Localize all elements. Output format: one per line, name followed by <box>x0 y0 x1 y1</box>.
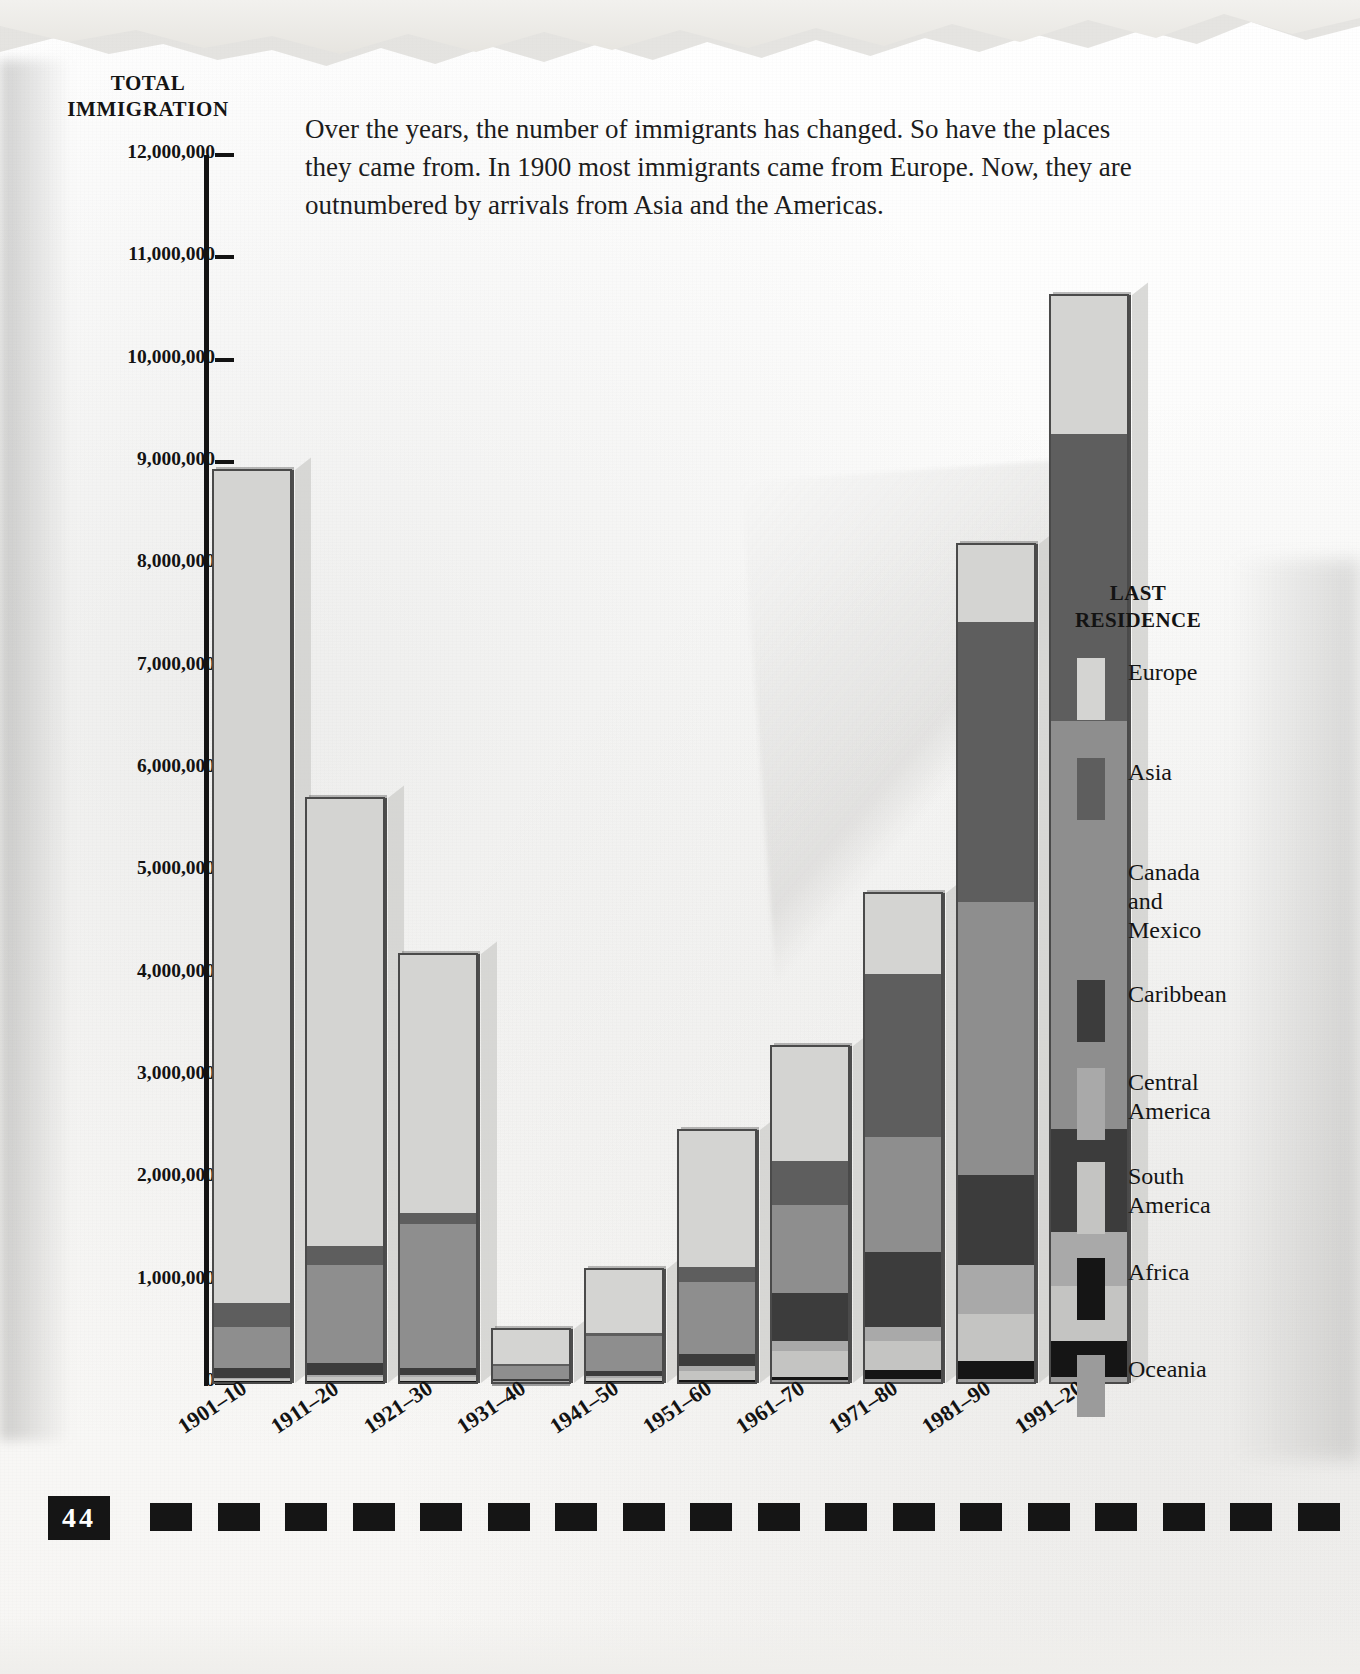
y-axis-tick-label: 11,000,000 <box>65 243 215 265</box>
bar-group <box>209 150 1109 1383</box>
bar-segment[interactable] <box>771 1341 849 1351</box>
footer-dash <box>960 1503 1002 1531</box>
bar-segment[interactable] <box>585 1269 663 1332</box>
y-axis-tick-label: 12,000,000 <box>65 141 215 163</box>
bar-segment[interactable] <box>771 1205 849 1293</box>
bar-stack[interactable] <box>213 470 291 1383</box>
x-axis-line <box>204 1381 208 1386</box>
bar-segment[interactable] <box>213 470 291 1303</box>
bar-column[interactable] <box>492 1329 570 1383</box>
legend-swatch <box>1077 980 1105 1042</box>
bar-segment[interactable] <box>957 622 1035 902</box>
bar-stack[interactable] <box>492 1329 570 1383</box>
legend-label-line: Canada <box>1128 858 1201 887</box>
legend-item[interactable]: Europe <box>1077 658 1197 720</box>
bar-segment[interactable] <box>306 1246 384 1265</box>
bar-segment[interactable] <box>492 1366 570 1379</box>
bar-segment[interactable] <box>957 1265 1035 1313</box>
bar-segment[interactable] <box>864 1252 942 1328</box>
bar-segment[interactable] <box>213 1327 291 1368</box>
bar-segment[interactable] <box>864 893 942 975</box>
bar-segment[interactable] <box>399 1368 477 1376</box>
bar-column[interactable] <box>864 893 942 1383</box>
bar-segment[interactable] <box>771 1293 849 1341</box>
footer-dash <box>1298 1503 1340 1531</box>
footer-dash <box>1163 1503 1205 1531</box>
legend-label-line: America <box>1128 1097 1211 1126</box>
bar-segment[interactable] <box>957 1361 1035 1379</box>
legend-label-line: America <box>1128 1191 1211 1220</box>
bar-stack[interactable] <box>678 1130 756 1383</box>
y-axis-tick-label: 1,000,000 <box>65 1267 215 1289</box>
bar-stack[interactable] <box>306 798 384 1383</box>
x-axis-label: 1911–20 <box>266 1376 343 1440</box>
bar-column[interactable] <box>771 1046 849 1383</box>
bar-segment[interactable] <box>864 1370 942 1378</box>
bar-segment[interactable] <box>771 1046 849 1161</box>
bar-column[interactable] <box>678 1130 756 1383</box>
bar-segment[interactable] <box>213 1303 291 1328</box>
bar-segment[interactable] <box>399 1213 477 1224</box>
legend-item[interactable]: SouthAmerica <box>1077 1162 1211 1234</box>
bar-stack[interactable] <box>771 1046 849 1383</box>
y-axis-tick-label: 0 <box>65 1369 215 1391</box>
legend-label: Africa <box>1128 1258 1189 1287</box>
bar-segment[interactable] <box>957 544 1035 622</box>
bar-segment[interactable] <box>678 1267 756 1282</box>
bar-column[interactable] <box>306 798 384 1383</box>
bar-segment[interactable] <box>399 1224 477 1367</box>
bar-stack[interactable] <box>585 1269 663 1383</box>
bar-segment[interactable] <box>864 1327 942 1341</box>
legend-item[interactable]: Asia <box>1077 758 1172 820</box>
legend-title-line1: LAST <box>1063 580 1213 607</box>
bar-segment[interactable] <box>678 1371 756 1380</box>
legend-swatch <box>1077 1162 1105 1234</box>
x-axis-label: 1961–70 <box>731 1375 809 1440</box>
footer-dash <box>150 1503 192 1531</box>
bar-column[interactable] <box>585 1269 663 1383</box>
bar-stack[interactable] <box>864 893 942 1383</box>
bar-stack[interactable] <box>399 954 477 1383</box>
bar-segment[interactable] <box>213 1368 291 1378</box>
bar-segment[interactable] <box>399 954 477 1213</box>
bar-segment[interactable] <box>864 1137 942 1252</box>
legend-item[interactable]: Africa <box>1077 1258 1189 1320</box>
legend-label: CentralAmerica <box>1128 1068 1211 1126</box>
footer-dash <box>690 1503 732 1531</box>
bar-segment[interactable] <box>1050 295 1128 434</box>
bar-stack[interactable] <box>957 544 1035 1383</box>
bar-segment[interactable] <box>585 1336 663 1371</box>
bar-segment[interactable] <box>957 902 1035 1175</box>
footer-dash <box>218 1503 260 1531</box>
footer-dash <box>488 1503 530 1531</box>
bar-segment[interactable] <box>957 1175 1035 1265</box>
bar-segment[interactable] <box>678 1282 756 1354</box>
legend-item[interactable]: CanadaandMexico <box>1077 858 1201 945</box>
y-axis-tick-label: 9,000,000 <box>65 448 215 470</box>
bar-segment[interactable] <box>864 1341 942 1370</box>
chart-legend: LAST RESIDENCE EuropeAsiaCanadaandMexico… <box>1063 580 1293 634</box>
x-axis-label: 1971–80 <box>824 1375 902 1440</box>
bar-column[interactable] <box>399 954 477 1383</box>
footer-dash <box>758 1503 800 1531</box>
y-axis-tick-label: 10,000,000 <box>65 346 215 368</box>
bar-segment[interactable] <box>957 1314 1035 1361</box>
legend-title-line2: RESIDENCE <box>1063 607 1213 634</box>
bar-column[interactable] <box>213 470 291 1383</box>
legend-item[interactable]: Caribbean <box>1077 980 1227 1042</box>
bar-segment[interactable] <box>492 1329 570 1365</box>
bar-segment[interactable] <box>306 1265 384 1362</box>
legend-label-line: Mexico <box>1128 916 1201 945</box>
bar-segment[interactable] <box>678 1130 756 1266</box>
bar-segment[interactable] <box>771 1161 849 1205</box>
legend-label-line: South <box>1128 1162 1211 1191</box>
bar-segment[interactable] <box>771 1351 849 1378</box>
bar-column[interactable] <box>957 544 1035 1383</box>
y-axis-tick-label: 8,000,000 <box>65 550 215 572</box>
bar-segment[interactable] <box>678 1354 756 1367</box>
bar-segment[interactable] <box>306 1363 384 1375</box>
bar-segment[interactable] <box>864 974 942 1137</box>
bar-segment[interactable] <box>306 798 384 1246</box>
legend-item[interactable]: Oceania <box>1077 1355 1207 1417</box>
legend-item[interactable]: CentralAmerica <box>1077 1068 1211 1140</box>
